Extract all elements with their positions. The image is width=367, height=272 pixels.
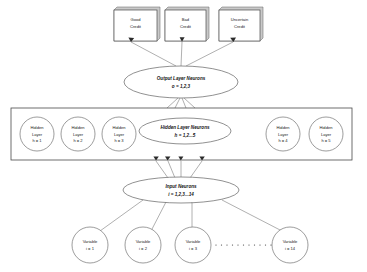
variable-node-2[interactable]: Variable i = 2 xyxy=(125,227,161,263)
hidden-node-1-line3: h = 1 xyxy=(32,138,42,143)
hidden-node-5-line1: Hidden xyxy=(320,125,334,130)
hidden-layer-neurons-group-node[interactable]: Hidden Layer Neurons h = 1,2...5 xyxy=(139,118,231,144)
output-layer-label-line2: o = 1,2,3 xyxy=(172,84,191,89)
connector-output-to-good xyxy=(131,42,176,66)
hidden-node-3-line2: Layer xyxy=(114,132,125,137)
connector-hidden-band-midleft xyxy=(175,98,180,108)
neural-network-diagram: Good Credit Bad Credit Uncertain Credit … xyxy=(0,0,367,272)
hidden-node-5-line2: Layer xyxy=(321,132,332,137)
outcome-box-bad-credit[interactable]: Bad Credit xyxy=(165,7,209,41)
good-credit-label-line2: Credit xyxy=(130,24,142,29)
hidden-node-2-line2: Layer xyxy=(73,132,84,137)
hidden-node-2[interactable]: Hidden Layer h = 2 xyxy=(61,117,95,151)
variable-ellipsis-dots xyxy=(215,244,271,245)
hidden-node-3-line3: h = 3 xyxy=(114,138,124,143)
input-to-variable-connectors xyxy=(100,200,282,231)
hidden-node-4-line3: h = 4 xyxy=(278,138,288,143)
hidden-layer-group-line1: Hidden Layer Neurons xyxy=(160,125,209,130)
hidden-node-1-line2: Layer xyxy=(32,132,43,137)
connector-hidden-band-left xyxy=(167,98,178,108)
variable-node-14-line2: i = 14 xyxy=(285,246,296,251)
variable-node-14[interactable]: Variable i = 14 xyxy=(272,227,308,263)
variable-node-1-circle xyxy=(72,227,108,263)
hidden-node-2-line3: h = 2 xyxy=(73,138,83,143)
connector-input-to-hidden-1 xyxy=(156,161,168,178)
connector-output-to-bad xyxy=(181,42,182,66)
hidden-node-4[interactable]: Hidden Layer h = 4 xyxy=(266,117,300,151)
hidden-node-3[interactable]: Hidden Layer h = 3 xyxy=(102,117,136,151)
hidden-node-4-line2: Layer xyxy=(278,132,289,137)
variable-node-2-circle xyxy=(125,227,161,263)
variable-node-1-line1: Variable xyxy=(83,239,98,244)
variable-node-1-line2: i = 1 xyxy=(86,246,95,251)
outcome-box-good-credit[interactable]: Good Credit xyxy=(114,7,160,41)
connector-input-to-hidden-4 xyxy=(190,161,202,178)
connector-input-to-variable-14 xyxy=(222,200,282,231)
uncertain-credit-label-line1: Uncertain xyxy=(231,17,249,22)
hidden-node-2-line1: Hidden xyxy=(72,125,86,130)
outcome-box-uncertain-credit[interactable]: Uncertain Credit xyxy=(219,7,263,41)
hidden-to-output-connectors xyxy=(167,98,195,108)
hidden-node-1-line1: Hidden xyxy=(31,125,45,130)
hidden-node-4-line1: Hidden xyxy=(277,125,291,130)
variable-node-3-circle xyxy=(175,227,211,263)
hidden-layer-group-ellipse xyxy=(139,118,231,144)
hidden-node-5[interactable]: Hidden Layer h = 5 xyxy=(309,117,343,151)
hidden-node-5-line3: h = 5 xyxy=(321,138,331,143)
connector-input-to-variable-1 xyxy=(100,200,143,231)
output-layer-ellipse xyxy=(124,66,238,98)
input-to-hidden-connectors xyxy=(156,161,202,178)
output-to-box-connectors xyxy=(131,42,233,66)
hidden-layer-group-line2: h = 1,2...5 xyxy=(175,133,196,138)
variable-node-14-circle xyxy=(272,227,308,263)
connector-input-to-hidden-2 xyxy=(168,161,175,178)
variable-node-3-line2: i = 3 xyxy=(189,246,198,251)
input-layer-label-line2: i = 1,2,3...14 xyxy=(168,192,194,197)
variable-node-1[interactable]: Variable i = 1 xyxy=(72,227,108,263)
input-layer-label-line1: Input Neurons xyxy=(165,184,197,189)
variable-node-14-line1: Variable xyxy=(283,239,298,244)
variable-node-2-line2: i = 2 xyxy=(139,246,148,251)
bad-credit-label-line1: Bad xyxy=(182,17,190,22)
input-neurons-node[interactable]: Input Neurons i = 1,2,3...14 xyxy=(123,177,239,203)
diagram-canvas: Good Credit Bad Credit Uncertain Credit … xyxy=(0,0,367,272)
variable-node-2-line1: Variable xyxy=(136,239,151,244)
input-layer-ellipse xyxy=(123,177,239,203)
output-layer-neurons-node[interactable]: Output Layer Neurons o = 1,2,3 xyxy=(124,66,238,98)
connector-input-to-variable-2 xyxy=(151,202,166,231)
output-layer-label-line1: Output Layer Neurons xyxy=(157,76,206,81)
variable-node-3-line1: Variable xyxy=(186,239,201,244)
connector-output-to-uncertain xyxy=(186,42,233,66)
uncertain-credit-label-line2: Credit xyxy=(234,24,246,29)
hidden-node-1[interactable]: Hidden Layer h = 1 xyxy=(20,117,54,151)
hidden-node-3-line1: Hidden xyxy=(113,125,127,130)
bad-credit-label-line2: Credit xyxy=(180,24,192,29)
variable-node-3[interactable]: Variable i = 3 xyxy=(175,227,211,263)
good-credit-label-line1: Good xyxy=(130,17,141,22)
